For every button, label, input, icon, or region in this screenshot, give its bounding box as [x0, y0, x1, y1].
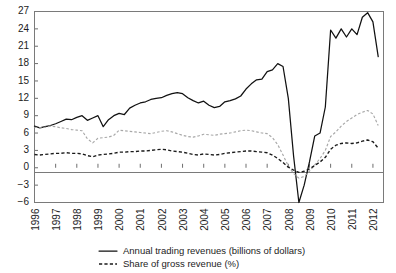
y-tick-label: 18: [18, 57, 30, 68]
x-tick-label: 2010: [326, 208, 337, 231]
x-tick-label: 1996: [30, 208, 41, 231]
y-tick-label: 0: [23, 161, 29, 172]
y-tick-label: 27: [18, 5, 30, 16]
x-tick-label: 2009: [305, 208, 316, 231]
x-tick-label: 2012: [368, 208, 379, 231]
line-chart: 2724211815129630−3−6 1996199719981999200…: [0, 0, 396, 273]
y-tick-label: 24: [18, 23, 30, 34]
x-tick-label: 2006: [241, 208, 252, 231]
x-tick-label: 2001: [135, 208, 146, 231]
legend-label-share-of-gross-revenue: Share of gross revenue (%): [123, 258, 239, 269]
y-tick-label: 21: [18, 40, 30, 51]
x-tick-label: 1998: [72, 208, 83, 231]
x-tick-label: 2004: [199, 208, 210, 231]
x-tick-label: 1999: [93, 208, 104, 231]
y-tick-label: 3: [23, 144, 29, 155]
x-tick-label: 2008: [284, 208, 295, 231]
x-tick-label: 2003: [178, 208, 189, 231]
y-tick-label: 9: [23, 109, 29, 120]
x-tick-label: 2005: [220, 208, 231, 231]
x-axis-tick-labels: 1996199719981999200020012002200320042005…: [30, 208, 379, 231]
y-tick-label: 15: [18, 75, 30, 86]
y-tick-label: −3: [18, 179, 30, 190]
legend-label-annual-trading-revenues: Annual trading revenues (billions of dol…: [123, 245, 305, 256]
y-tick-label: 6: [23, 127, 29, 138]
x-tick-label: 2007: [262, 208, 273, 231]
x-tick-label: 2002: [157, 208, 168, 231]
x-tick-label: 2011: [347, 208, 358, 230]
x-tick-label: 1997: [51, 208, 62, 231]
x-tick-label: 2000: [114, 208, 125, 231]
y-tick-label: −6: [18, 196, 30, 207]
y-tick-label: 12: [18, 92, 30, 103]
chart-container: 2724211815129630−3−6 1996199719981999200…: [0, 0, 396, 273]
